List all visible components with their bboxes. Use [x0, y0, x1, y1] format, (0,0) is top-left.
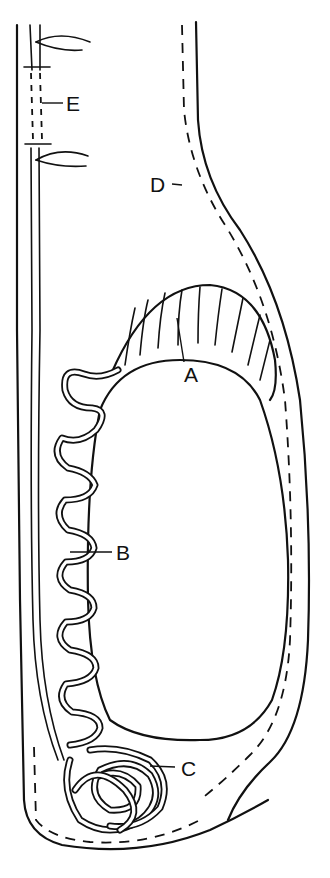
label-b: B: [116, 541, 130, 564]
label-d: D: [150, 173, 165, 196]
coiled-mass-c: [67, 749, 165, 830]
label-e: E: [66, 92, 80, 115]
label-a: A: [184, 363, 198, 386]
dashed-layer-d: [34, 25, 291, 843]
anatomical-diagram: A B C D E: [0, 0, 330, 878]
label-c: C: [181, 757, 196, 780]
